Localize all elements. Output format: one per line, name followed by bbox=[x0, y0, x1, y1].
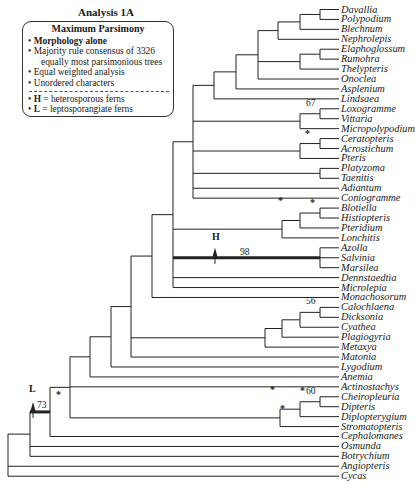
bootstrap-star: * bbox=[56, 390, 61, 400]
arrow-up-icon bbox=[213, 248, 218, 257]
legend-key-l: • L = leptosporangiate ferns bbox=[27, 104, 169, 115]
bootstrap-star: * bbox=[300, 386, 305, 396]
bootstrap-star: * bbox=[278, 196, 283, 206]
legend-item: • Equal weighted analysis bbox=[27, 67, 169, 78]
legend-key-h: • H = heterosporous ferns bbox=[27, 94, 169, 105]
marker-l: L bbox=[29, 384, 36, 394]
bootstrap-star: * bbox=[310, 198, 315, 208]
legend-item: • Morphology alone bbox=[27, 36, 169, 47]
legend-item: • Unordered characters bbox=[27, 78, 169, 89]
arrow-up-icon bbox=[31, 402, 36, 411]
marker-h: H bbox=[212, 232, 220, 242]
support-value: 73 bbox=[37, 400, 47, 410]
support-value: 98 bbox=[240, 247, 250, 257]
support-value: 56 bbox=[306, 296, 316, 306]
legend-box: Maximum Parsimony • Morphology alone • M… bbox=[22, 21, 174, 117]
bootstrap-star: * bbox=[305, 129, 310, 139]
figure-title: Analysis 1A bbox=[70, 6, 142, 18]
legend-item: • Majority rule consensus of 3326 bbox=[27, 46, 169, 57]
bootstrap-star: * bbox=[280, 404, 285, 414]
legend-heading: Maximum Parsimony bbox=[27, 24, 169, 35]
legend-divider bbox=[29, 91, 169, 92]
legend-item-cont: equally most parsimonious trees bbox=[27, 57, 169, 68]
support-value: 60 bbox=[306, 386, 316, 396]
bootstrap-star: * bbox=[270, 385, 275, 395]
support-value: 67 bbox=[306, 98, 316, 108]
taxon-label: Cycas bbox=[341, 470, 366, 481]
